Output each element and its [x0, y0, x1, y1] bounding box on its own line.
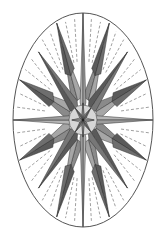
quilting-dash: [42, 40, 60, 73]
quilting-dash: [121, 129, 149, 133]
quilting-dash: [114, 58, 135, 86]
long-point: [95, 23, 109, 75]
cardinal-point: [80, 125, 83, 227]
long-point: [20, 80, 54, 102]
quilting-dash: [89, 178, 91, 221]
cardinal-point: [83, 13, 86, 115]
quilting-dash: [17, 129, 45, 133]
quilting-dash: [75, 19, 77, 62]
quilting-dash: [75, 178, 77, 221]
compass-oval-illustration: [0, 0, 166, 240]
center-dot: [82, 119, 84, 121]
long-point: [57, 165, 71, 217]
quilting-dash: [114, 155, 135, 183]
quilting-dash: [106, 168, 124, 201]
quilting-dash: [89, 19, 91, 62]
quilting-dash: [121, 107, 149, 111]
quilting-dash: [106, 40, 124, 73]
long-point: [112, 138, 146, 160]
cardinal-point: [80, 13, 83, 115]
quilting-dash: [30, 58, 51, 86]
quilting-dash: [42, 168, 60, 201]
quilting-dash: [30, 155, 51, 183]
quilting-dash: [17, 107, 45, 111]
cardinal-point: [83, 125, 86, 227]
